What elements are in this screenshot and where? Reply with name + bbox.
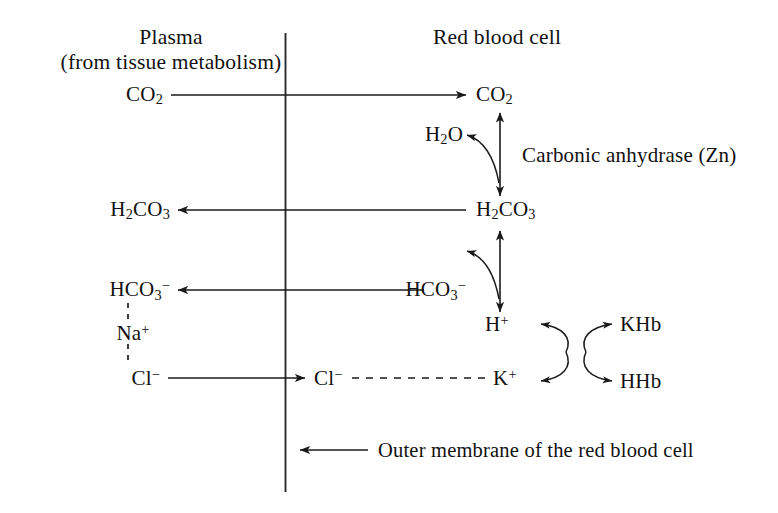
enzyme-label-carbonic-anhydrase: Carbonic anhydrase (Zn) [522, 145, 737, 166]
water-subscript: 2 [440, 131, 447, 147]
cell-h2co3-h: H [476, 197, 491, 221]
plasma-chloride-charge: − [152, 366, 160, 382]
arrow-water-entry [467, 135, 499, 183]
species-cell-co2: CO2 [476, 84, 513, 107]
sodium-base: Na [116, 321, 141, 345]
cell-hco3-base: HCO [405, 277, 450, 301]
potassium-charge: + [508, 366, 516, 382]
plasma-co2-base: CO [126, 82, 156, 106]
cell-chloride-base: Cl [314, 366, 334, 390]
arrow-to-potassium-hemoglobin [584, 324, 612, 352]
species-protonated-hemoglobin: HHb [620, 371, 661, 392]
plasma-hco3-charge: − [162, 277, 170, 293]
arrow-potassium-from-exchange [541, 352, 568, 381]
plasma-h2co3-h: H [110, 197, 125, 221]
arrow-to-protonated-hemoglobin [584, 352, 612, 381]
cell-chloride-charge: − [334, 366, 342, 382]
arrow-proton-from-exchange [541, 324, 568, 352]
potassium-base: K [493, 366, 508, 390]
species-plasma-hco3: HCO3− [109, 278, 170, 302]
species-plasma-chloride: Cl− [132, 367, 161, 389]
cell-h2co3-sub1: 2 [491, 206, 498, 222]
diagram-vector-layer [0, 0, 778, 513]
species-plasma-co2: CO2 [126, 84, 163, 107]
species-cell-chloride: Cl− [314, 367, 343, 389]
species-proton: H+ [485, 313, 509, 335]
plasma-h2co3-sub2: 3 [163, 206, 170, 222]
species-plasma-h2co3: H2CO3 [110, 199, 170, 222]
membrane-caption: Outer membrane of the red blood cell [378, 440, 694, 461]
cell-co2-subscript: 2 [506, 91, 513, 107]
proton-charge: + [500, 312, 508, 328]
plasma-column-subtitle: (from tissue metabolism) [61, 52, 282, 74]
cell-co2-base: CO [476, 82, 506, 106]
species-sodium: Na+ [116, 322, 149, 344]
plasma-column-title: Plasma [139, 27, 202, 49]
cell-hco3-charge: − [458, 277, 466, 293]
plasma-h2co3-co: CO [133, 197, 163, 221]
species-cell-h2co3: H2CO3 [476, 199, 536, 222]
species-potassium: K+ [493, 367, 517, 389]
species-cell-hco3: HCO3− [405, 278, 466, 302]
diagram-canvas: Plasma (from tissue metabolism) Red bloo… [0, 0, 778, 513]
plasma-co2-subscript: 2 [156, 91, 163, 107]
arrow-hco3-release [467, 251, 499, 299]
red-blood-cell-column-title: Red blood cell [433, 27, 561, 49]
proton-base: H [485, 312, 500, 336]
plasma-hco3-base: HCO [109, 277, 154, 301]
plasma-chloride-base: Cl [132, 366, 152, 390]
species-water: H2O [425, 124, 463, 147]
plasma-h2co3-sub1: 2 [126, 206, 133, 222]
water-oxygen: O [448, 122, 463, 146]
species-potassium-hemoglobin: KHb [620, 314, 661, 335]
sodium-charge: + [141, 321, 149, 337]
water-hydrogen: H [425, 122, 440, 146]
cell-h2co3-sub2: 3 [528, 206, 535, 222]
cell-h2co3-co: CO [499, 197, 529, 221]
